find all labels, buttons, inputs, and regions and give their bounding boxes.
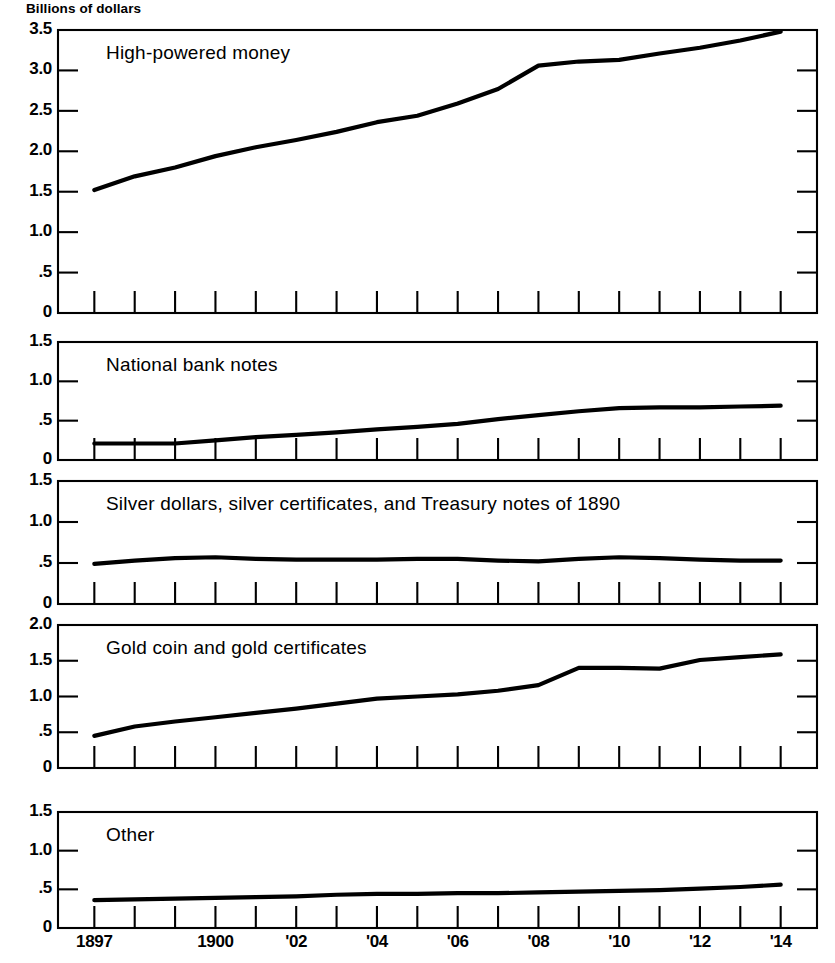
x-tick-label: '10 [584, 932, 654, 952]
x-tick-label: '14 [746, 932, 816, 952]
y-tick-label: 1.5 [4, 801, 52, 821]
chart-panel: 0.51.01.5Other [0, 0, 835, 963]
multi-panel-line-chart: Billions of dollars 0.51.01.52.02.53.03.… [0, 0, 835, 963]
x-tick-label: '06 [423, 932, 493, 952]
x-tick-label: '08 [503, 932, 573, 952]
y-tick-label: 1.0 [4, 840, 52, 860]
x-tick-label: '02 [261, 932, 331, 952]
panel-title: Other [106, 824, 155, 846]
data-series-line [94, 885, 780, 900]
panel-plot-area [0, 0, 835, 963]
x-tick-label: 1900 [180, 932, 250, 952]
x-tick-label: 1897 [59, 932, 129, 952]
y-tick-label: 0 [4, 917, 52, 937]
x-tick-label: '12 [665, 932, 735, 952]
y-tick-label: .5 [4, 878, 52, 898]
x-tick-label: '04 [342, 932, 412, 952]
panel-frame [58, 812, 817, 928]
